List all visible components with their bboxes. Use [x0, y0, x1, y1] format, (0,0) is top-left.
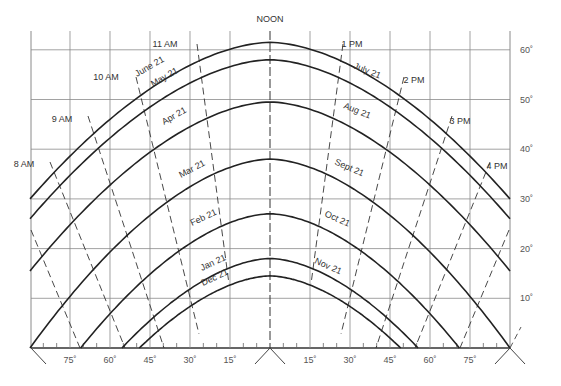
date-curve-label: Apr 21 [160, 105, 188, 127]
azimuth-label: 30˚ [183, 355, 196, 365]
hour-labels: 11 AM1 PM10 AM2 PM9 AM3 PM8 AM4 PM [14, 39, 508, 171]
hour-label-am: 8 AM [14, 159, 35, 169]
right-corner-mark [495, 348, 525, 364]
axis-labels: 75˚60˚45˚30˚15˚15˚30˚45˚60˚75˚10˚20˚30˚4… [63, 45, 533, 365]
hour-line-pm [341, 77, 404, 334]
altitude-label: 60˚ [520, 45, 533, 55]
noon-label: NOON [257, 14, 284, 24]
hour-label-pm: 1 PM [341, 39, 362, 49]
hour-label-pm: 4 PM [486, 161, 507, 171]
azimuth-label: 60˚ [423, 355, 436, 365]
azimuth-label: 15˚ [223, 355, 236, 365]
date-curve-label: Sept 21 [333, 157, 365, 179]
hour-line-pm [415, 162, 490, 348]
azimuth-label: 30˚ [343, 355, 356, 365]
azimuth-label: 75˚ [63, 355, 76, 365]
azimuth-label: 75˚ [463, 355, 476, 365]
center-mark [255, 348, 285, 364]
altitude-label: 40˚ [520, 144, 533, 154]
altitude-label: 10˚ [520, 293, 533, 303]
date-curve-label: Nov 21 [313, 256, 343, 277]
left-corner-mark [31, 348, 46, 364]
right-extra-tick [510, 327, 521, 348]
hour-label-am: 10 AM [93, 72, 119, 82]
azimuth-label: 60˚ [103, 355, 116, 365]
hour-line-pm [460, 230, 509, 348]
date-curve-label: Feb 21 [189, 207, 219, 228]
azimuth-label: 45˚ [383, 355, 396, 365]
hour-line-am [31, 230, 80, 348]
date-curve-label: Aug 21 [342, 101, 372, 121]
altitude-label: 30˚ [520, 194, 533, 204]
azimuth-label: 45˚ [143, 355, 156, 365]
sun-path-diagram: 75˚60˚45˚30˚15˚15˚30˚45˚60˚75˚10˚20˚30˚4… [0, 0, 561, 386]
date-curve-label: Oct 21 [323, 209, 351, 229]
altitude-label: 20˚ [520, 244, 533, 254]
hour-line-am [50, 162, 125, 348]
hour-label-am: 9 AM [52, 114, 73, 124]
date-curve-label: July 21 [352, 61, 382, 81]
curve-labels: June 21May 21July 21Apr 21Aug 21Mar 21Se… [133, 54, 382, 288]
hour-label-am: 11 AM [153, 39, 178, 49]
altitude-label: 50˚ [520, 95, 533, 105]
date-curve-label: Mar 21 [177, 158, 206, 180]
hour-label-pm: 2 PM [403, 75, 424, 85]
hour-label-pm: 3 PM [449, 116, 470, 126]
azimuth-label: 15˚ [303, 355, 316, 365]
